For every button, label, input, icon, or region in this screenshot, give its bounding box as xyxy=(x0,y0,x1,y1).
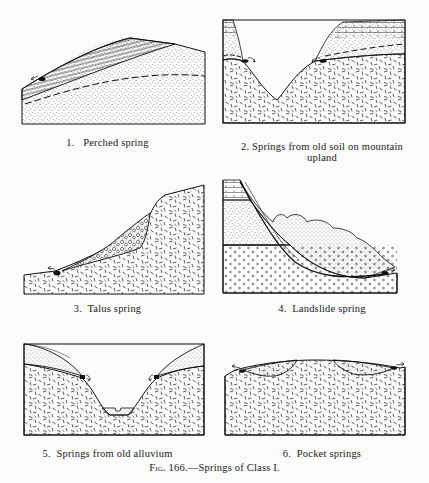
caption-pocket-springs: 6. Pocket springs xyxy=(215,448,429,459)
diagram-pocket-springs xyxy=(215,320,429,440)
caption-perched-spring: 1. Perched spring xyxy=(0,137,215,148)
caption-text: Talus spring xyxy=(87,303,141,314)
spring-marker-right xyxy=(154,375,159,379)
panel-perched-spring: 1. Perched spring xyxy=(0,0,215,150)
caption-text: Springs from old soil on mountain xyxy=(252,141,403,152)
figure-label: Fig. 166. xyxy=(149,462,188,473)
diagram-old-alluvium-springs xyxy=(0,320,215,440)
crystalline-rock xyxy=(223,54,405,123)
panel-talus-spring: 3. Talus spring xyxy=(0,170,215,320)
spring-marker xyxy=(54,271,61,276)
diagram-talus-spring xyxy=(0,170,215,295)
flow-arrow-left-icon xyxy=(248,58,255,62)
spring-marker xyxy=(39,77,46,81)
caption-landslide-spring: 4. Landslide spring xyxy=(215,303,429,314)
flow-arrow-icon xyxy=(48,266,55,270)
caption-talus-spring: 3. Talus spring xyxy=(0,303,215,314)
crystalline-rock xyxy=(24,185,204,294)
flow-arrow-left-icon xyxy=(86,375,91,381)
flow-arrow-right-icon xyxy=(396,363,404,367)
panel-landslide-spring: 4. Landslide spring xyxy=(215,170,429,320)
caption-old-alluvium-springs: 5. Springs from old alluvium xyxy=(0,448,215,459)
figure-title: Springs of Class I. xyxy=(198,462,279,473)
left-bedded xyxy=(223,20,237,36)
caption-text: Landslide spring xyxy=(292,303,365,314)
right-bedded xyxy=(335,20,405,38)
figure-caption: Fig. 166.—Springs of Class I. xyxy=(0,462,429,473)
caption-number: 3. xyxy=(74,303,82,314)
panel-old-soil-springs: 2. Springs from old soil on mountain upl… xyxy=(215,0,429,170)
caption-text: Springs from old alluvium xyxy=(56,448,172,459)
caption-text-line2: upland xyxy=(307,152,337,163)
caption-number: 1. xyxy=(66,137,74,148)
panel-old-alluvium-springs: 5. Springs from old alluvium xyxy=(0,320,215,460)
caption-text: Pocket springs xyxy=(297,448,361,459)
diagram-landslide-spring xyxy=(215,170,429,295)
caption-number: 5. xyxy=(42,448,50,459)
spring-marker-left xyxy=(242,59,249,63)
spring-marker-right xyxy=(391,366,397,370)
caption-number: 6. xyxy=(283,448,291,459)
flow-arrow-left-icon xyxy=(232,365,240,369)
caption-number: 4. xyxy=(278,303,286,314)
caption-text: Perched spring xyxy=(83,137,149,148)
diagram-perched-spring xyxy=(0,0,215,130)
diagram-old-soil-springs xyxy=(215,0,429,125)
spring-marker xyxy=(382,271,389,275)
caption-number: 2. xyxy=(241,141,249,152)
spring-marker-left xyxy=(239,369,245,373)
crystalline-rock xyxy=(24,364,204,435)
caption-old-soil-springs: 2. Springs from old soil on mountain upl… xyxy=(215,141,429,163)
spring-marker-left xyxy=(80,375,85,379)
figure-dash: — xyxy=(188,462,199,473)
flow-arrow-right-icon xyxy=(149,375,154,381)
spring-marker-right xyxy=(320,59,327,63)
panel-pocket-springs: 6. Pocket springs xyxy=(215,320,429,460)
